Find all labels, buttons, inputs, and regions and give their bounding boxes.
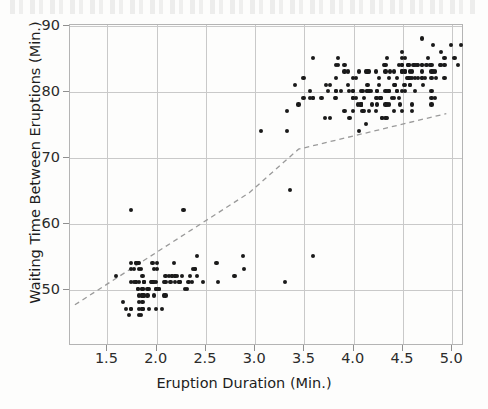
gridline-vertical (403, 25, 404, 344)
gridline-vertical (452, 25, 453, 344)
gridline-vertical (304, 25, 305, 344)
gridline-vertical (206, 25, 207, 344)
y-tick-mark (63, 25, 69, 26)
plot-area-frame (69, 24, 463, 345)
gridline-vertical (107, 25, 108, 344)
x-tick-label: 5.0 (421, 350, 481, 366)
gridline-vertical (255, 25, 256, 344)
scan-bleedthrough-artifact (10, 0, 478, 14)
gridline-vertical (354, 25, 355, 344)
x-axis-label: Eruption Duration (Min.) (0, 375, 488, 391)
y-axis-label: Waiting Time Between Eruptions (Min.) (27, 21, 43, 303)
y-tick-mark (63, 289, 69, 290)
y-tick-mark (63, 91, 69, 92)
gridline-vertical (157, 25, 158, 344)
y-tick-mark (63, 223, 69, 224)
chart-page: 50607080901.52.02.53.03.54.04.55.0 Erupt… (0, 0, 488, 409)
y-axis-label-wrapper: Waiting Time Between Eruptions (Min.) (25, 0, 44, 328)
y-tick-mark (63, 157, 69, 158)
